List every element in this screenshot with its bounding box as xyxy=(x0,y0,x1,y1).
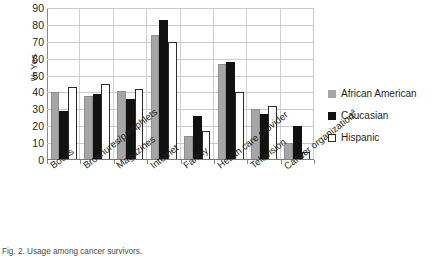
legend-label: African American xyxy=(341,88,417,99)
y-tick-label: 10 xyxy=(20,139,44,147)
bar xyxy=(84,96,93,160)
legend-swatch-icon xyxy=(328,90,336,98)
bar-set xyxy=(184,8,210,160)
chart-legend: African AmericanCaucasianHispanic xyxy=(328,88,436,154)
bar-group xyxy=(80,8,113,160)
x-tickmark xyxy=(314,160,315,164)
y-tick-label: 60 xyxy=(20,55,44,63)
bar-set xyxy=(284,8,310,160)
y-tick-label: 80 xyxy=(20,21,44,29)
bar-group xyxy=(181,8,214,160)
bar xyxy=(159,20,168,160)
bar-set xyxy=(51,8,77,160)
y-tick-label: 90 xyxy=(20,4,44,12)
plot-area xyxy=(47,8,314,160)
legend-item[interactable]: Caucasian xyxy=(328,110,436,121)
y-tick-label: 70 xyxy=(20,38,44,46)
bar xyxy=(51,92,60,160)
y-axis-ticks: 9080706050403020100 xyxy=(18,0,44,162)
bar-group xyxy=(281,8,314,160)
legend-item[interactable]: African American xyxy=(328,88,436,99)
bar xyxy=(117,91,126,160)
bar xyxy=(218,64,227,160)
bar-set xyxy=(151,8,177,160)
bar-groups xyxy=(47,8,314,160)
y-tick-label: 40 xyxy=(20,88,44,96)
bar-set xyxy=(218,8,244,160)
x-axis-labels: BooksBrochures/pamphletsMagazinesInterne… xyxy=(47,162,314,232)
y-tick-label: 30 xyxy=(20,105,44,113)
bar-set xyxy=(84,8,110,160)
bar xyxy=(226,62,235,160)
legend-item[interactable]: Hispanic xyxy=(328,132,436,143)
y-tick-label: 50 xyxy=(20,72,44,80)
y-tick-label: 0 xyxy=(20,156,44,164)
legend-swatch-icon xyxy=(328,112,336,120)
figure-caption: Fig. 2. Usage among cancer survivors. xyxy=(2,247,435,256)
legend-swatch-icon xyxy=(328,134,336,142)
bar-group xyxy=(47,8,80,160)
legend-label: Caucasian xyxy=(341,110,388,121)
legend-label: Hispanic xyxy=(341,132,379,143)
y-tick-label: 20 xyxy=(20,122,44,130)
bar-group xyxy=(214,8,247,160)
